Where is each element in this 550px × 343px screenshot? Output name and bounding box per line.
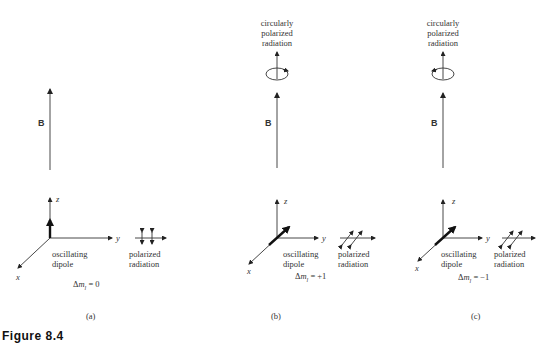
panel-label-b: (b)	[271, 311, 281, 321]
b-field-label: B	[265, 118, 272, 128]
delta-m-value: = +1	[308, 271, 326, 281]
circular-radiation-label: circularly polarized radiation	[255, 18, 299, 48]
dipole-label-line: oscillating	[441, 249, 476, 259]
radiation-label-line: polarized	[494, 249, 526, 259]
z-axis-label: z	[452, 196, 455, 206]
circular-radiation-label: circularly polarized radiation	[421, 18, 465, 48]
dipole-label-line: oscillating	[52, 249, 87, 259]
delta-m-label: Δml = 0	[73, 279, 100, 293]
panel-c	[418, 52, 535, 261]
dipole-label: oscillating dipole	[441, 249, 476, 269]
dipole-label-line: dipole	[52, 259, 87, 269]
top-label-line: circularly	[255, 18, 299, 28]
dipole-label-line: dipole	[283, 259, 318, 269]
delta-m-label: Δml = −1	[458, 272, 489, 286]
panel-a	[18, 89, 166, 268]
y-axis-label: y	[322, 233, 326, 243]
figure-caption: Figure 8.4	[2, 329, 64, 343]
delta-m-label: Δml = +1	[295, 271, 326, 285]
dipole-label-line: oscillating	[283, 249, 318, 259]
x-axis-label: x	[415, 263, 419, 273]
dipole-label-line: dipole	[441, 259, 476, 269]
dipole-label: oscillating dipole	[52, 249, 87, 269]
delta-m-value: = −1	[471, 272, 489, 282]
panel-label-c: (c)	[471, 311, 480, 321]
x-axis-label: x	[247, 266, 251, 276]
z-axis-label: z	[284, 196, 287, 206]
dipole-arrow	[269, 227, 289, 245]
top-label-line: polarized	[255, 28, 299, 38]
panel-b	[249, 52, 375, 264]
y-axis-label: y	[116, 233, 120, 243]
delta-m-value: = 0	[86, 279, 99, 289]
b-field-label: B	[38, 118, 45, 128]
radiation-label: polarized radiation	[494, 249, 526, 269]
radiation-label-line: polarized	[129, 249, 161, 259]
radiation-label-line: polarized	[338, 249, 370, 259]
dipole-arrow	[435, 227, 455, 245]
dipole-label: oscillating dipole	[283, 249, 318, 269]
radiation-label-line: radiation	[129, 259, 161, 269]
radiation-label-line: radiation	[338, 259, 370, 269]
top-label-line: radiation	[421, 38, 465, 48]
z-axis-label: z	[56, 194, 59, 204]
radiation-label-line: radiation	[494, 259, 526, 269]
b-field-label: B	[431, 118, 438, 128]
top-label-line: circularly	[421, 18, 465, 28]
top-label-line: radiation	[255, 38, 299, 48]
x-axis-label: x	[16, 272, 20, 282]
x-axis	[18, 238, 50, 268]
top-label-line: polarized	[421, 28, 465, 38]
radiation-label: polarized radiation	[129, 249, 161, 269]
panel-label-a: (a)	[86, 311, 95, 321]
y-axis-label: y	[486, 233, 490, 243]
radiation-label: polarized radiation	[338, 249, 370, 269]
